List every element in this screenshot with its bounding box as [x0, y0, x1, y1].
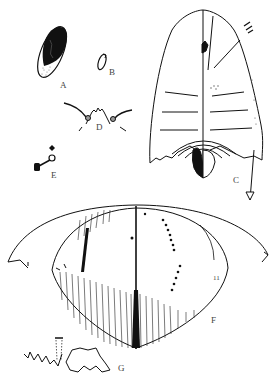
panel-c-dots [210, 79, 256, 124]
panel-label-b: B [109, 67, 115, 77]
panel-e-structure [34, 145, 55, 171]
panel-c-shield [150, 10, 263, 200]
panel-f-dark-marks [81, 213, 181, 348]
f-marks-annotation: 11 [213, 274, 220, 282]
panel-f-hatching [60, 210, 194, 348]
panel-g-fragment [24, 338, 110, 372]
scientific-illustration: A B C D E F G 11 [0, 0, 275, 384]
panel-label-a: A [60, 80, 67, 90]
panel-label-e: E [51, 170, 57, 180]
panel-label-c: C [233, 175, 239, 185]
panel-a-specimen [32, 23, 73, 81]
panel-b-specimen [96, 53, 108, 70]
panel-label-d: D [96, 122, 103, 132]
panel-label-f: F [211, 315, 216, 325]
panel-label-g: G [118, 363, 125, 373]
